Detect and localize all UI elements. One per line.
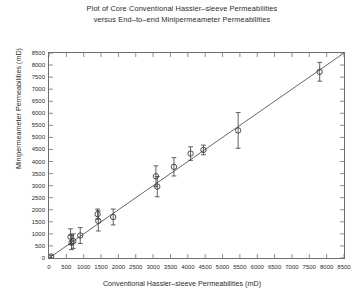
x-tick-label: 0 (47, 264, 50, 270)
x-tick-label: 1000 (77, 264, 90, 270)
x-tick-label: 8000 (320, 264, 333, 270)
plot-canvas (49, 53, 344, 258)
y-tick-label: 8000 (32, 62, 45, 68)
chart-root: Plot of Core Conventional Hassler–sleeve… (0, 0, 364, 300)
scatter-plot-svg (49, 53, 344, 258)
x-tick-label: 4000 (181, 264, 194, 270)
x-tick-label: 7000 (285, 264, 298, 270)
y-tick-label: 5000 (32, 134, 45, 140)
x-tick-label: 7500 (303, 264, 316, 270)
y-tick-label: 4500 (32, 146, 45, 152)
y-tick-label: 7500 (32, 74, 45, 80)
x-axis-title: Conventional Hassler–sleeve Permeabiliti… (0, 279, 364, 288)
y-tick-label: 1000 (32, 231, 45, 237)
y-tick-label: 3500 (32, 171, 45, 177)
x-axis-tick-labels: 0500100015002000250030003500400045005000… (48, 264, 345, 276)
y-tick-label: 1500 (32, 219, 45, 225)
plot-area (48, 52, 345, 259)
y-tick-label: 500 (35, 243, 45, 249)
x-tick-label: 2500 (129, 264, 142, 270)
chart-title-line-2: versus End–to–end Minipermeameter Permea… (0, 15, 364, 26)
x-tick-label: 5000 (216, 264, 229, 270)
y-axis-title: Minipermeameter Permeabilities (mD) (14, 0, 23, 219)
y-tick-label: 0 (42, 255, 45, 261)
y-tick-label: 6000 (32, 110, 45, 116)
x-tick-label: 2000 (112, 264, 125, 270)
y-tick-label: 8500 (32, 50, 45, 56)
x-tick-label: 8500 (337, 264, 350, 270)
chart-title-line-1: Plot of Core Conventional Hassler–sleeve… (0, 4, 364, 15)
y-tick-label: 7000 (32, 86, 45, 92)
chart-title: Plot of Core Conventional Hassler–sleeve… (0, 4, 364, 25)
x-tick-label: 6500 (268, 264, 281, 270)
x-tick-label: 5500 (233, 264, 246, 270)
x-tick-label: 1500 (94, 264, 107, 270)
y-tick-label: 5500 (32, 122, 45, 128)
x-tick-label: 500 (61, 264, 71, 270)
y-tick-label: 6500 (32, 98, 45, 104)
x-tick-label: 6000 (251, 264, 264, 270)
y-tick-label: 2500 (32, 195, 45, 201)
x-tick-label: 3000 (146, 264, 159, 270)
y-tick-label: 2000 (32, 207, 45, 213)
x-tick-label: 3500 (164, 264, 177, 270)
x-tick-label: 4500 (198, 264, 211, 270)
y-axis-tick-labels: 0500100015002000250030003500400045005000… (0, 52, 45, 259)
y-tick-label: 4000 (32, 159, 45, 165)
y-tick-label: 3000 (32, 183, 45, 189)
